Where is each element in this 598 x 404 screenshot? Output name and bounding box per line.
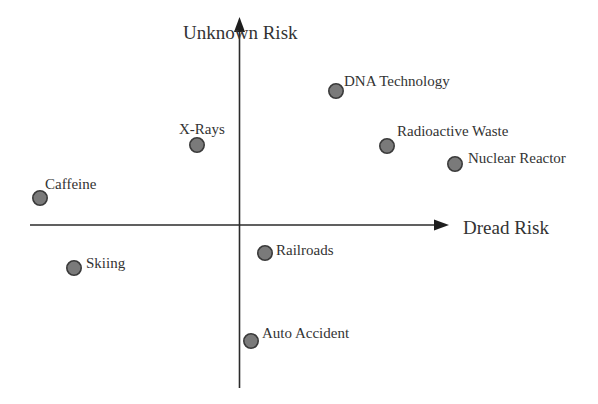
point-marker-nuclear-reactor: [448, 157, 462, 171]
point-marker-dna-technology: [329, 84, 343, 98]
point-label-railroads: Railroads: [276, 243, 334, 258]
x-axis-label: Dread Risk: [463, 218, 549, 237]
point-label-radioactive-waste: Radioactive Waste: [397, 124, 508, 139]
point-label-nuclear-reactor: Nuclear Reactor: [468, 151, 566, 166]
x-axis-arrow-icon: [434, 220, 449, 231]
risk-perception-diagram: [0, 0, 598, 404]
point-marker-x-rays: [190, 138, 204, 152]
point-label-caffeine: Caffeine: [45, 177, 96, 192]
y-axis-label: Unknown Risk: [183, 23, 298, 42]
point-marker-skiing: [67, 261, 81, 275]
point-marker-auto-accident: [244, 334, 258, 348]
point-label-x-rays: X-Rays: [179, 122, 225, 137]
point-marker-railroads: [258, 246, 272, 260]
point-marker-radioactive-waste: [380, 139, 394, 153]
point-label-auto-accident: Auto Accident: [262, 326, 349, 341]
point-label-dna-technology: DNA Technology: [344, 74, 450, 89]
point-label-skiing: Skiing: [86, 256, 125, 271]
point-marker-caffeine: [33, 191, 47, 205]
